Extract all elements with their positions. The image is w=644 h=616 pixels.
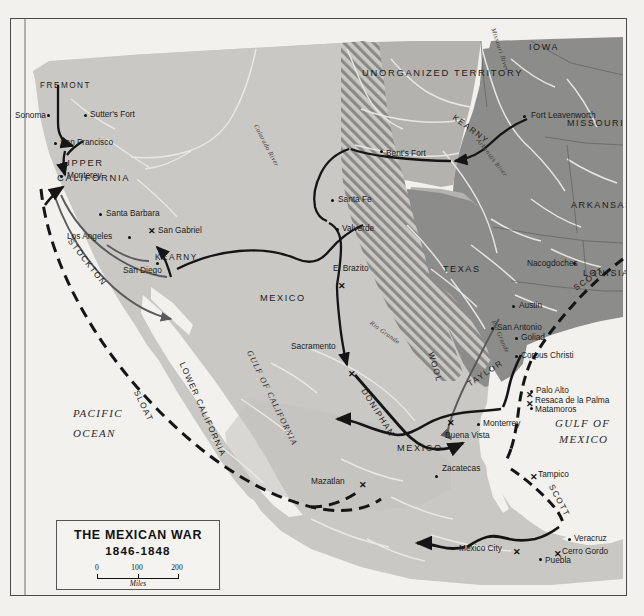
route-kearny-to-santafe <box>314 149 349 221</box>
battle-x-mexico-city: ✕ <box>513 548 521 557</box>
route-kearny-bents <box>351 149 451 161</box>
scale-units-label: Miles <box>57 579 219 588</box>
route-fremont-coastal <box>64 151 66 175</box>
route-kearny-main-west <box>177 225 363 269</box>
map-title-years: 1846-1848 <box>57 544 219 557</box>
map-title: THE MEXICAN WAR <box>57 528 219 542</box>
route-sloat-landing <box>45 187 63 205</box>
route-doniphan-sacramento <box>355 375 463 449</box>
battle-x-el-brazito: ✕ <box>338 282 346 291</box>
battle-x-sacramento: ✕ <box>348 370 356 379</box>
scale-tick-labels: 0 100 200 <box>57 563 219 572</box>
title-cartouche: THE MEXICAN WAR 1846-1848 0 100 200 Mile… <box>56 520 220 590</box>
scale-bar-group: 0 100 200 Miles <box>57 563 219 589</box>
mexican-war-map: ✕ ✕ ✕ ✕ ✕ ✕ ✕ ✕ ✕ ✕ UPPER CALIFORNIA UNO… <box>0 0 644 616</box>
battle-x-tampico: ✕ <box>530 473 538 482</box>
scale-tick-200: 200 <box>171 563 182 572</box>
route-stockton <box>61 195 167 277</box>
route-doniphan-brazito <box>337 285 347 365</box>
route-sloat-to-mazatlan <box>311 491 359 507</box>
route-fremont-sutter <box>67 141 83 155</box>
scale-tick-100: 100 <box>131 563 142 572</box>
battle-x-mazatlan: ✕ <box>359 481 367 490</box>
route-wool <box>448 319 499 439</box>
route-scott-land <box>467 527 559 547</box>
route-scott-sea-north <box>533 259 623 359</box>
battle-x-san-gabriel: ✕ <box>148 227 156 236</box>
route-sloat-sea <box>41 189 381 511</box>
route-stockton-la-loop <box>107 245 149 261</box>
route-scott-to-mexicocity <box>417 543 465 549</box>
route-taylor <box>503 355 521 407</box>
battle-x-buena-vista: ✕ <box>447 419 455 428</box>
route-scott-to-tampico <box>505 449 511 463</box>
map-routes-layer <box>11 19 627 596</box>
route-kearny-east <box>455 119 527 161</box>
map-frame: ✕ ✕ ✕ ✕ ✕ ✕ ✕ ✕ ✕ ✕ UPPER CALIFORNIA UNO… <box>10 18 627 596</box>
route-doniphan-south <box>329 223 341 285</box>
route-kearny-west <box>157 247 171 277</box>
battle-x-resaca: ✕ <box>526 400 534 409</box>
route-fremont <box>58 85 73 146</box>
scale-tick-0: 0 <box>95 563 99 572</box>
battle-x-cerro-gordo: ✕ <box>554 550 562 559</box>
route-taylor-buenavista <box>337 419 397 435</box>
